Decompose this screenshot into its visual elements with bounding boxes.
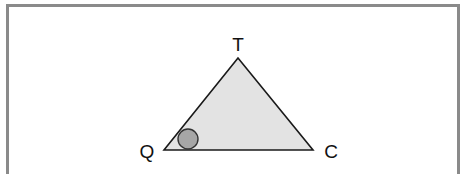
vertex-label-c: C bbox=[324, 141, 338, 162]
vertex-label-t: T bbox=[232, 34, 244, 55]
vertex-label-q: Q bbox=[140, 141, 155, 162]
triangle-diagram: T Q C bbox=[0, 0, 469, 174]
angle-q-marker bbox=[178, 129, 198, 149]
